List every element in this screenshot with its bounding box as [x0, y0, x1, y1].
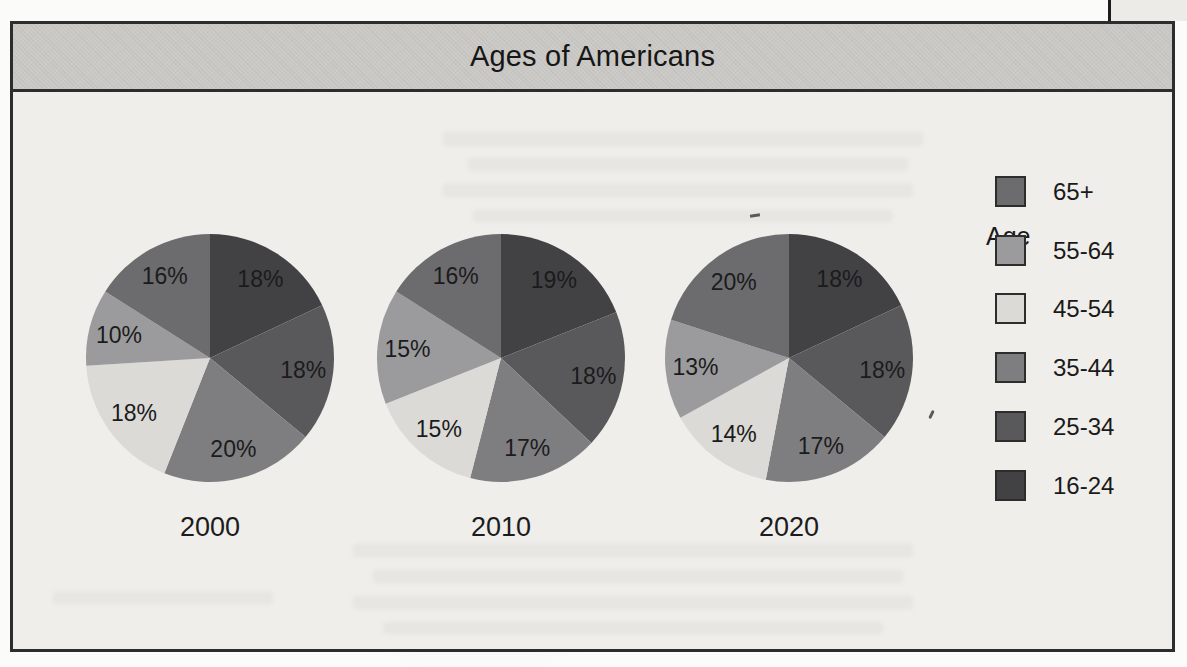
chart-title-bar: Ages of Americans — [13, 24, 1172, 92]
legend-label-35-44: 35-44 — [1053, 354, 1114, 382]
column-rule-line — [1108, 0, 1111, 23]
legend-row-25-34: 25-34 — [995, 412, 1114, 441]
legend-swatch-55-64 — [995, 235, 1026, 266]
legend-label-45-54: 45-54 — [1053, 295, 1114, 323]
legend-swatch-16-24 — [995, 470, 1026, 501]
scanned-page: Ages of Americans 18%18%20%18%10%16%2000… — [0, 0, 1187, 667]
legend-row-65+: 65+ — [995, 177, 1094, 206]
page-margin-shade — [1111, 0, 1187, 21]
legend-swatch-25-34 — [995, 411, 1026, 442]
legend-row-55-64: 55-64 — [995, 236, 1114, 265]
legend-row-45-54: 45-54 — [995, 294, 1114, 323]
legend-swatch-65+ — [995, 176, 1026, 207]
chart-title: Ages of Americans — [470, 40, 715, 72]
chart-body: 18%18%20%18%10%16%200019%18%17%15%15%16%… — [13, 92, 1172, 649]
legend-label-16-24: 16-24 — [1053, 472, 1114, 500]
legend-label-25-34: 25-34 — [1053, 413, 1114, 441]
legend-swatch-35-44 — [995, 352, 1026, 383]
chart-panel: Ages of Americans 18%18%20%18%10%16%2000… — [10, 21, 1175, 652]
legend-swatch-45-54 — [995, 293, 1026, 324]
legend-label-65+: 65+ — [1053, 178, 1094, 206]
legend: Age 65+55-6445-5435-4425-3416-24 — [13, 92, 1172, 649]
legend-label-55-64: 55-64 — [1053, 237, 1114, 265]
legend-row-35-44: 35-44 — [995, 353, 1114, 382]
legend-row-16-24: 16-24 — [995, 471, 1114, 500]
